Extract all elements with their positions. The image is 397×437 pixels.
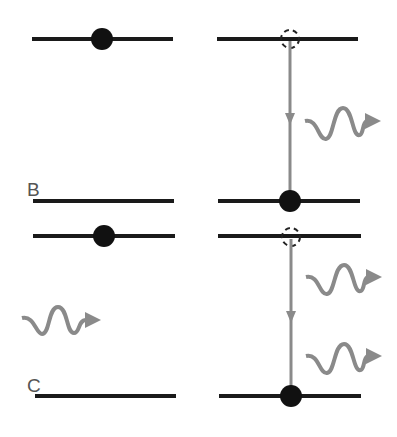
incoming-photon-icon xyxy=(22,307,93,334)
electron-icon xyxy=(93,225,115,247)
panel-label-b: B xyxy=(27,179,40,200)
electron-icon xyxy=(280,385,302,407)
arrowhead-icon xyxy=(286,311,296,323)
panel-b: B xyxy=(27,28,373,212)
electron-icon xyxy=(91,28,113,50)
panel-c: C xyxy=(22,225,374,407)
arrowhead-icon xyxy=(285,113,295,125)
panel-label-c: C xyxy=(27,375,41,396)
emitted-photon-icon xyxy=(306,344,374,373)
emitted-photon-icon xyxy=(306,265,374,294)
energy-level-diagram: B C xyxy=(0,0,397,437)
electron-icon xyxy=(279,190,301,212)
emitted-photon-icon xyxy=(305,108,373,139)
